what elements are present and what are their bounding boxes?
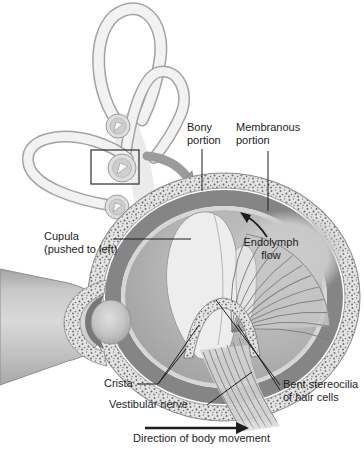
label-endolymph-flow: Endolymph flow	[233, 236, 309, 262]
membranous-duct-opening	[91, 300, 131, 344]
canal-tube	[0, 269, 97, 385]
label-cupula: Cupula (pushed to left)	[44, 230, 117, 256]
label-membranous-portion: Membranous portion	[236, 121, 300, 147]
label-bony-portion: Bony portion	[187, 121, 221, 147]
label-bent-stereocilia: Bent stereocilia of hair cells	[283, 378, 358, 404]
ampulla-bulb-middle	[108, 154, 136, 182]
label-direction-of-body-movement: Direction of body movement	[133, 432, 270, 445]
ampulla-bulb-top	[106, 114, 130, 138]
label-crista: Crista	[104, 377, 133, 390]
figure-ampulla-diagram: Bony portion Membranous portion Cupula (…	[0, 0, 364, 459]
label-vestibular-nerve: Vestibular nerve	[109, 398, 188, 411]
